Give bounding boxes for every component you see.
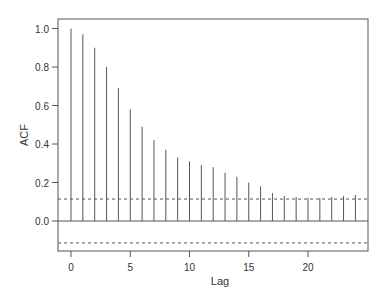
- y-tick-label: 1.0: [35, 24, 49, 35]
- x-tick-label: 15: [243, 262, 255, 273]
- y-tick-label: 0.4: [35, 139, 49, 150]
- plot-area: 0.00.20.40.60.81.005101520: [35, 19, 368, 273]
- x-tick-label: 5: [127, 262, 133, 273]
- y-tick-label: 0.8: [35, 62, 49, 73]
- y-tick-label: 0.0: [35, 216, 49, 227]
- x-axis-label: Lag: [211, 275, 229, 287]
- x-tick-label: 20: [302, 262, 314, 273]
- x-tick-label: 0: [68, 262, 74, 273]
- acf-chart: 0.00.20.40.60.81.005101520 ACF Lag: [0, 0, 384, 299]
- y-tick-label: 0.2: [35, 178, 49, 189]
- y-tick-label: 0.6: [35, 101, 49, 112]
- x-tick-label: 10: [184, 262, 196, 273]
- y-axis-label: ACF: [18, 124, 30, 146]
